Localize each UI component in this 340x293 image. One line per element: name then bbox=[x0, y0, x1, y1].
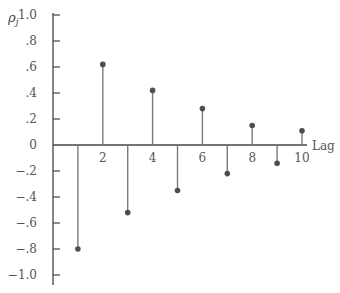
y-tick-labels: 1.0.8.6.4.20−.2−.4−.6−.8−1.0 bbox=[8, 8, 38, 282]
stem-marker bbox=[299, 128, 305, 134]
stem-marker bbox=[125, 210, 131, 216]
stem-marker bbox=[274, 160, 280, 166]
x-tick-label: 8 bbox=[248, 151, 256, 165]
y-tick-label: −1.0 bbox=[8, 268, 37, 282]
y-tick-label: .6 bbox=[26, 60, 37, 74]
y-tick-label: .4 bbox=[26, 86, 38, 100]
x-tick-label: 4 bbox=[149, 151, 157, 165]
stem-marker bbox=[225, 171, 231, 177]
stem-marker bbox=[200, 106, 206, 112]
stem-marker bbox=[100, 62, 106, 68]
axes bbox=[53, 13, 307, 285]
x-tick-label: 6 bbox=[199, 151, 207, 165]
stem-lag-5 bbox=[175, 145, 181, 193]
y-tick-label: −.4 bbox=[15, 190, 37, 204]
stem-marker bbox=[75, 246, 81, 252]
y-tick-label: .2 bbox=[26, 112, 37, 126]
stem-marker bbox=[249, 123, 255, 129]
x-tick-label: 10 bbox=[294, 151, 309, 165]
stem-lag-10 bbox=[299, 128, 305, 145]
x-tick-label: 2 bbox=[99, 151, 107, 165]
acf-stem-chart: ρj 1.0.8.6.4.20−.2−.4−.6−.8−1.0 246810 L… bbox=[0, 0, 340, 293]
stem-lag-4 bbox=[150, 88, 156, 145]
stem-lag-6 bbox=[200, 106, 206, 145]
y-tick-label: −.6 bbox=[15, 216, 37, 230]
stem-lag-7 bbox=[225, 145, 231, 176]
stem-lag-2 bbox=[100, 62, 106, 145]
stems bbox=[75, 62, 305, 252]
svg-text:ρj: ρj bbox=[7, 10, 19, 27]
y-tick-label: 1.0 bbox=[18, 8, 37, 22]
y-axis-label: ρj bbox=[7, 10, 19, 27]
stem-marker bbox=[175, 188, 181, 194]
stem-lag-3 bbox=[125, 145, 131, 215]
y-tick-label: −.2 bbox=[15, 164, 37, 178]
y-tick-label: −.8 bbox=[15, 242, 37, 256]
x-axis-label: Lag bbox=[312, 139, 335, 153]
stem-lag-9 bbox=[274, 145, 280, 166]
stem-lag-1 bbox=[75, 145, 81, 252]
stem-lag-8 bbox=[249, 123, 255, 145]
stem-marker bbox=[150, 88, 156, 94]
y-tick-label: 0 bbox=[29, 138, 37, 152]
y-tick-label: .8 bbox=[26, 34, 37, 48]
